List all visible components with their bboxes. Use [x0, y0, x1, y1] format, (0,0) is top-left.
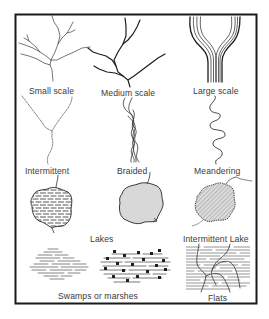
lake-lined-symbol: [28, 175, 76, 233]
lakes-label: Lakes: [90, 234, 113, 244]
braided-stream-symbol: [123, 98, 139, 162]
medium-scale-label: Medium scale: [101, 88, 155, 98]
large-scale-label: Large scale: [193, 86, 239, 96]
intermittent-label: Intermittent: [25, 166, 69, 176]
lake-filled-symbol: [119, 172, 163, 224]
large-scale-river-symbol: [190, 17, 240, 82]
swamp-symbol: [100, 249, 170, 282]
meandering-label: Meandering: [194, 166, 240, 176]
flats-label: Flats: [208, 293, 227, 303]
intermittent-stream-symbol: [22, 96, 72, 164]
small-scale-label: Small scale: [29, 86, 74, 96]
braided-label: Braided: [117, 166, 147, 176]
swamps-label: Swamps or marshes: [58, 291, 138, 301]
intermittent-lake-symbol: [192, 177, 236, 226]
marsh-symbol: [30, 249, 88, 279]
medium-scale-drainage-symbol: [88, 18, 165, 87]
intermittent-lake-label: Intermittent Lake: [183, 234, 249, 244]
small-scale-drainage-symbol: [19, 16, 90, 81]
flats-symbol: [186, 244, 250, 292]
hydrography-symbol-diagram: Small scale Medium scale Large scale Int…: [0, 0, 269, 319]
diagram-canvas: [0, 0, 269, 319]
